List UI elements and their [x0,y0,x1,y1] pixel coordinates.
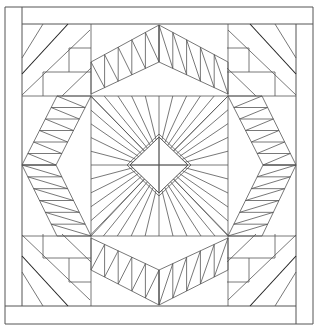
line [246,189,285,201]
line [275,24,296,58]
line [174,96,229,151]
line [145,32,159,62]
line [145,270,159,298]
line [182,137,228,159]
line [257,165,296,177]
line [246,119,274,131]
line [132,96,154,143]
line [240,201,279,213]
line [91,138,136,160]
line [250,24,296,74]
line [131,187,153,236]
quilt-diagram [0,0,317,328]
line [250,256,296,306]
shape [91,238,228,270]
line [275,272,296,306]
shape [91,270,228,305]
line [145,96,156,140]
line [251,131,279,143]
line [117,185,150,236]
line [91,171,136,193]
line [91,96,145,151]
line [251,177,290,189]
line [185,168,228,179]
shape [91,25,228,62]
line [22,24,43,58]
line [240,108,268,120]
center-rays [91,96,228,236]
line [174,179,229,236]
quilt-svg [0,0,317,328]
line [182,171,228,193]
line [22,165,62,177]
line [40,201,80,213]
line [118,257,132,284]
line [234,96,262,108]
line [263,154,290,166]
line [165,96,187,143]
line [132,264,146,291]
line [105,55,119,82]
line [234,212,274,224]
line [91,244,105,270]
line [162,190,173,236]
line [228,224,268,236]
line [105,251,119,277]
line [91,62,105,88]
line [22,24,68,74]
line [162,96,173,140]
line [257,142,285,154]
shape [262,96,296,236]
line [91,168,133,179]
line [22,256,68,306]
line [185,151,228,162]
line [22,272,43,306]
line [45,119,73,131]
line [28,154,56,166]
line [28,177,68,189]
line [51,108,79,120]
line [145,190,156,236]
shape [22,96,57,236]
line [57,96,85,108]
line [45,212,85,224]
line [91,151,133,162]
line [34,189,74,201]
line [165,187,187,236]
line [34,142,62,154]
line [40,131,68,143]
line [51,224,91,236]
line [168,185,201,236]
line [118,47,132,75]
line [132,40,146,69]
